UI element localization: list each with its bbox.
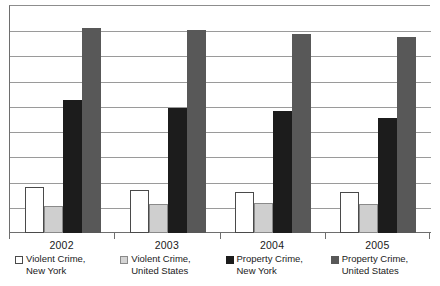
bar-group <box>326 6 431 233</box>
black-square-swatch-icon <box>226 256 234 264</box>
bar[interactable] <box>254 203 273 233</box>
bar-group <box>221 6 326 233</box>
x-axis-label-2003: 2003 <box>114 238 219 254</box>
legend-label: Property Crime, United States <box>342 253 409 277</box>
legend-label: Violent Crime, United States <box>131 253 191 277</box>
legend-item[interactable]: Violent Crime, New York <box>15 253 114 277</box>
bar[interactable] <box>82 28 101 233</box>
bar-group <box>115 6 220 233</box>
legend-label: Property Crime, New York <box>237 253 304 277</box>
x-axis-label-2002: 2002 <box>9 238 114 254</box>
bar[interactable] <box>44 206 63 233</box>
x-axis-labels: 2002200320042005 <box>9 238 430 254</box>
bar[interactable] <box>359 204 378 233</box>
bar[interactable] <box>149 204 168 233</box>
legend-item[interactable]: Property Crime, New York <box>226 253 325 277</box>
light-gray-square-swatch-icon <box>120 256 128 264</box>
bar[interactable] <box>63 100 82 233</box>
bar-groups <box>10 6 431 233</box>
bar[interactable] <box>235 192 254 233</box>
bar[interactable] <box>292 34 311 233</box>
bar[interactable] <box>378 118 397 233</box>
legend-item[interactable]: Property Crime, United States <box>331 253 430 277</box>
bar[interactable] <box>397 37 416 233</box>
bar-group <box>10 6 115 233</box>
bar[interactable] <box>130 190 149 233</box>
bar[interactable] <box>340 192 359 233</box>
legend-label: Violent Crime, New York <box>26 253 86 277</box>
dark-gray-square-swatch-icon <box>331 256 339 264</box>
bar-chart: 2002200320042005 Violent Crime, New York… <box>0 0 440 286</box>
plot-area <box>9 5 430 232</box>
bar[interactable] <box>187 30 206 233</box>
white-square-swatch-icon <box>15 256 23 264</box>
bar[interactable] <box>168 108 187 233</box>
bar[interactable] <box>25 187 44 233</box>
x-axis-label-2004: 2004 <box>220 238 325 254</box>
chart-legend: Violent Crime, New YorkViolent Crime, Un… <box>9 253 430 277</box>
bar[interactable] <box>273 111 292 233</box>
legend-item[interactable]: Violent Crime, United States <box>120 253 219 277</box>
x-axis-label-2005: 2005 <box>325 238 430 254</box>
